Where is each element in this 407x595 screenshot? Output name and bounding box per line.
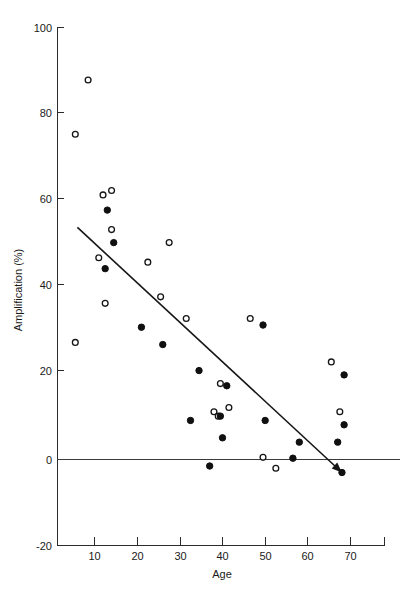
data-point-open <box>166 240 172 246</box>
data-point-filled <box>138 324 144 330</box>
data-point-filled <box>207 463 213 469</box>
data-point-open <box>100 192 106 198</box>
data-point-open <box>85 77 91 83</box>
y-tick-label-40: 40 <box>40 279 52 291</box>
x-tick-label-10: 10 <box>88 550 100 562</box>
data-point-open <box>109 227 115 233</box>
data-point-filled <box>187 417 193 423</box>
data-point-open <box>72 131 78 137</box>
series-open-circles <box>72 77 342 471</box>
data-point-filled <box>341 422 347 428</box>
data-point-open <box>247 316 253 322</box>
data-points-layer <box>72 77 347 476</box>
data-point-filled <box>102 265 108 271</box>
data-point-open <box>328 359 334 365</box>
data-point-filled <box>160 341 166 347</box>
data-point-open <box>96 255 102 261</box>
data-point-filled <box>111 239 117 245</box>
data-point-filled <box>335 439 341 445</box>
y-tick-label-80: 80 <box>40 107 52 119</box>
data-point-open <box>158 294 164 300</box>
data-point-open <box>102 300 108 306</box>
data-point-filled <box>219 435 225 441</box>
y-axis-title: Amplification (%) <box>12 249 24 332</box>
data-point-filled <box>217 413 223 419</box>
data-point-filled <box>339 469 345 475</box>
x-axis-title: Age <box>212 568 232 580</box>
data-point-open <box>217 381 223 387</box>
y-tick-label-60: 60 <box>40 193 52 205</box>
data-point-filled <box>290 455 296 461</box>
data-point-filled <box>296 439 302 445</box>
data-point-filled <box>260 322 266 328</box>
y-tick-label-20: 20 <box>40 365 52 377</box>
series-closed-circles <box>102 207 347 476</box>
x-tick-label-40: 40 <box>216 550 228 562</box>
data-point-open <box>72 339 78 345</box>
data-point-filled <box>104 207 110 213</box>
x-tick-label-70: 70 <box>344 550 356 562</box>
data-point-filled <box>196 367 202 373</box>
data-point-open <box>337 409 343 415</box>
x-tick-label-20: 20 <box>131 550 143 562</box>
data-point-open <box>260 454 266 460</box>
y-tick-label-minus20: -20 <box>36 540 52 552</box>
data-point-filled <box>341 372 347 378</box>
data-point-filled <box>262 417 268 423</box>
data-point-open <box>183 316 189 322</box>
plot-canvas: 100 80 60 40 20 0 -20 10 20 30 40 50 60 … <box>0 0 407 595</box>
x-tick-label-50: 50 <box>259 550 271 562</box>
y-tick-label-0: 0 <box>46 454 52 466</box>
scatter-plot-figure: 100 80 60 40 20 0 -20 10 20 30 40 50 60 … <box>0 0 407 595</box>
x-tick-label-60: 60 <box>301 550 313 562</box>
data-point-open <box>109 188 115 194</box>
data-point-open <box>145 259 151 265</box>
x-axis-ticks: 10 20 30 40 50 60 70 <box>88 537 356 562</box>
data-point-open <box>273 465 279 471</box>
regression-line-segment <box>77 227 342 472</box>
data-point-filled <box>224 383 230 389</box>
x-tick-label-30: 30 <box>174 550 186 562</box>
data-point-open <box>226 405 232 411</box>
y-tick-label-100: 100 <box>34 22 52 34</box>
regression-line <box>77 227 342 472</box>
y-axis-ticks: 100 80 60 40 20 0 -20 <box>34 22 64 552</box>
